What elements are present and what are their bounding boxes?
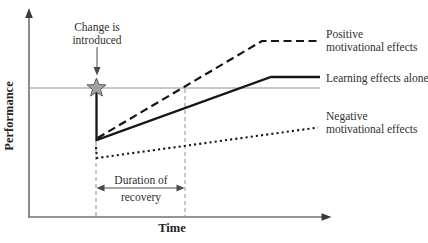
performance-time-diagram: Change is introduced Positive motivation… [0, 0, 428, 243]
x-axis-arrowhead-icon [322, 213, 332, 221]
duration-arrowhead-right-icon [177, 185, 185, 192]
x-axis-label: Time [158, 221, 186, 235]
legend-learning-label: Learning effects alone [326, 72, 428, 85]
diagram-canvas: Change is introduced Positive motivation… [0, 0, 428, 243]
series-positive-motivational [98, 41, 321, 138]
series-learning-alone [97, 77, 321, 140]
change-annotation-arrowhead-icon [94, 67, 101, 76]
series-negative-motivational [96, 128, 318, 159]
duration-label-line1: Duration of [114, 174, 168, 186]
change-annotation-label-line2: introduced [72, 34, 121, 46]
change-annotation-label-line1: Change is [74, 21, 120, 34]
y-axis-arrowhead-icon [25, 8, 33, 18]
y-axis-label: Performance [2, 81, 16, 151]
legend-positive-label-line1: Positive [326, 28, 363, 40]
legend-positive-label-line2: motivational effects [326, 41, 418, 53]
legend-negative-label-line2: motivational effects [326, 123, 418, 135]
duration-arrowhead-left-icon [97, 185, 105, 192]
legend-negative-label-line1: Negative [326, 110, 368, 123]
duration-label-line2: recovery [121, 191, 161, 204]
